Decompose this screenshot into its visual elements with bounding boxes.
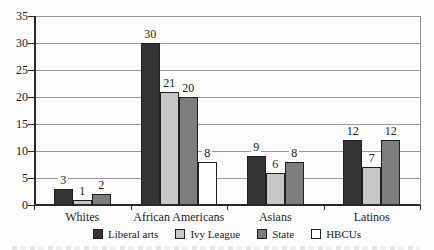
bar-value-label: 20 bbox=[180, 82, 196, 95]
y-gridline bbox=[34, 70, 420, 71]
legend-swatch bbox=[257, 229, 267, 239]
bar-ivy-league bbox=[160, 92, 179, 205]
legend-item-hbcus: HBCUs bbox=[311, 227, 361, 241]
x-axis-category-label: Asians bbox=[259, 209, 292, 225]
plot-area: 05101520253035312Whites3021208African Am… bbox=[0, 0, 434, 250]
bar-value-label: 3 bbox=[58, 174, 68, 187]
bar-value-label: 12 bbox=[345, 125, 361, 138]
x-axis-tick bbox=[34, 205, 35, 210]
x-axis-category-label: African Americans bbox=[133, 209, 224, 225]
legend-swatch bbox=[175, 229, 185, 239]
legend-label: HBCUs bbox=[326, 227, 361, 241]
bar-value-label: 7 bbox=[367, 152, 377, 165]
chart-legend: Liberal artsIvy LeagueStateHBCUs bbox=[34, 227, 420, 241]
bar-value-label: 8 bbox=[202, 147, 212, 160]
bar-value-label: 8 bbox=[289, 147, 299, 160]
bar-chart-figure: 05101520253035312Whites3021208African Am… bbox=[0, 0, 434, 250]
bar-liberal-arts bbox=[54, 189, 73, 205]
bar-hbcus bbox=[198, 162, 217, 205]
y-axis-tick-label: 15 bbox=[4, 116, 28, 132]
cropped-caption-remnant bbox=[12, 246, 420, 250]
legend-label: State bbox=[272, 227, 294, 241]
y-axis-line bbox=[34, 16, 36, 205]
legend-swatch bbox=[311, 229, 321, 239]
bar-value-label: 21 bbox=[161, 77, 177, 90]
x-axis-category-label: Whites bbox=[65, 209, 99, 225]
bar-state bbox=[179, 97, 198, 205]
bar-state bbox=[285, 162, 304, 205]
bar-value-label: 9 bbox=[251, 141, 261, 154]
bar-ivy-league bbox=[362, 167, 381, 205]
y-axis-tick-label: 5 bbox=[4, 170, 28, 186]
bar-liberal-arts bbox=[343, 140, 362, 205]
x-axis-category-label: Latinos bbox=[354, 209, 390, 225]
y-axis-tick-label: 20 bbox=[4, 89, 28, 105]
bar-value-label: 30 bbox=[142, 28, 158, 41]
y-axis-tick-label: 30 bbox=[4, 35, 28, 51]
y-gridline bbox=[34, 124, 420, 125]
bar-ivy-league bbox=[266, 173, 285, 205]
y-axis-tick-label: 35 bbox=[4, 8, 28, 24]
x-axis-tick bbox=[131, 205, 132, 210]
x-axis-tick bbox=[420, 205, 421, 210]
y-axis-tick-label: 0 bbox=[4, 197, 28, 213]
legend-label: Liberal arts bbox=[108, 227, 158, 241]
bar-liberal-arts bbox=[141, 43, 160, 205]
bar-liberal-arts bbox=[247, 156, 266, 205]
bar-value-label: 12 bbox=[383, 125, 399, 138]
legend-item-liberal-arts: Liberal arts bbox=[93, 227, 158, 241]
legend-swatch bbox=[93, 229, 103, 239]
bar-state bbox=[381, 140, 400, 205]
x-axis-tick bbox=[324, 205, 325, 210]
y-gridline bbox=[34, 43, 420, 44]
y-axis-tick-label: 10 bbox=[4, 143, 28, 159]
y-gridline bbox=[34, 16, 420, 17]
legend-item-ivy-league: Ivy League bbox=[175, 227, 240, 241]
legend-item-state: State bbox=[257, 227, 294, 241]
bar-value-label: 6 bbox=[270, 158, 280, 171]
y-gridline bbox=[34, 97, 420, 98]
plot-right-border bbox=[420, 16, 421, 205]
y-axis-tick-label: 25 bbox=[4, 62, 28, 78]
bar-value-label: 1 bbox=[77, 185, 87, 198]
legend-label: Ivy League bbox=[190, 227, 240, 241]
bar-value-label: 2 bbox=[96, 179, 106, 192]
x-axis-tick bbox=[227, 205, 228, 210]
